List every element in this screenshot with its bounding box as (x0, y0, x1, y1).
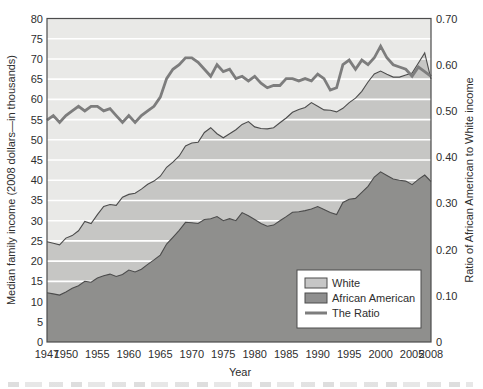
legend-label-the-ratio: The Ratio (332, 307, 380, 319)
y-axis-left-tick-label: 40 (31, 174, 43, 186)
income-ratio-figure: WhiteAfrican AmericanThe Ratio0510152025… (0, 0, 483, 389)
legend-swatch-white (305, 278, 327, 288)
y-axis-right-tick-label: 0.10 (436, 290, 457, 302)
y-axis-right-tick-label: 0.60 (436, 59, 457, 71)
y-axis-left-tick-label: 10 (31, 296, 43, 308)
legend-swatch-african-american (305, 293, 327, 303)
y-axis-left-tick-label: 15 (31, 275, 43, 287)
chart-svg: WhiteAfrican AmericanThe Ratio0510152025… (0, 0, 483, 389)
x-axis-tick-label: 1950 (54, 348, 78, 360)
x-axis-tick-label: 1975 (211, 348, 235, 360)
y-axis-right-tick-label: 0.70 (436, 13, 457, 25)
y-axis-right-tick-label: 0.20 (436, 244, 457, 256)
y-axis-left-tick-label: 25 (31, 235, 43, 247)
y-axis-left-tick-label: 20 (31, 255, 43, 267)
y-axis-left-tick-label: 70 (31, 53, 43, 65)
x-axis-tick-label: 1965 (148, 348, 172, 360)
y-axis-left-tick-label: 35 (31, 194, 43, 206)
y-axis-left-tick-label: 30 (31, 215, 43, 227)
right-axis-title: Ratio of African American to White incom… (463, 77, 475, 282)
y-axis-left-tick-label: 55 (31, 114, 43, 126)
left-axis-title: Median family income (2008 dollars—in th… (5, 55, 17, 305)
cropped-caption-strip (8, 382, 473, 387)
y-axis-right-tick-label: 0.30 (436, 197, 457, 209)
y-axis-left-tick-label: 80 (31, 13, 43, 25)
y-axis-left-tick-label: 65 (31, 73, 43, 85)
y-axis-left-tick-label: 60 (31, 93, 43, 105)
x-axis-tick-label: 2008 (419, 348, 443, 360)
y-axis-left-tick-label: 0 (37, 336, 43, 348)
y-axis-right-tick-label: 0.40 (436, 151, 457, 163)
legend-label-african-american: African American (332, 292, 415, 304)
x-axis-title: Year (229, 366, 251, 378)
x-axis-tick-label: 1970 (180, 348, 204, 360)
y-axis-right-tick-label: 0 (436, 336, 442, 348)
legend-label-white: White (332, 277, 360, 289)
x-axis-tick-label: 1995 (337, 348, 361, 360)
x-axis-tick-label: 1980 (242, 348, 266, 360)
x-axis-tick-label: 1990 (305, 348, 329, 360)
x-axis-tick-label: 1960 (117, 348, 141, 360)
x-axis-tick-label: 1955 (85, 348, 109, 360)
x-axis-tick-label: 2000 (368, 348, 392, 360)
x-axis-tick-label: 1985 (274, 348, 298, 360)
y-axis-left-tick-label: 50 (31, 134, 43, 146)
y-axis-right-tick-label: 0.50 (436, 105, 457, 117)
y-axis-left-tick-label: 45 (31, 154, 43, 166)
y-axis-left-tick-label: 75 (31, 33, 43, 45)
y-axis-left-tick-label: 5 (37, 316, 43, 328)
